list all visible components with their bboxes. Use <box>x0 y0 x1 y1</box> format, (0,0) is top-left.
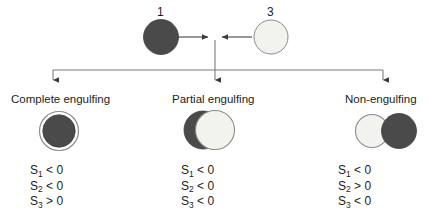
condition-symbol: S <box>338 179 346 193</box>
condition-comparison: > 0 <box>351 179 371 193</box>
condition-symbol: S <box>181 179 189 193</box>
condition-symbol: S <box>30 179 38 193</box>
branch-connectors <box>53 40 383 70</box>
condition-symbol: S <box>30 194 38 208</box>
complete-engulfing-icon <box>40 112 79 151</box>
branch-label-non: Non-engulfing <box>345 94 417 106</box>
condition-symbol: S <box>181 194 189 208</box>
condition-line-1: S1 < 0 <box>181 163 214 179</box>
condition-subscript: 3 <box>38 200 43 210</box>
condition-symbol: S <box>338 163 346 177</box>
condition-comparison: < 0 <box>194 194 214 208</box>
condition-comparison: < 0 <box>194 163 214 177</box>
particle-1-label: 1 <box>157 6 164 18</box>
branch-label-complete: Complete engulfing <box>11 94 110 106</box>
condition-symbol: S <box>181 163 189 177</box>
condition-line-2: S2 < 0 <box>30 179 63 195</box>
condition-comparison: < 0 <box>351 194 371 208</box>
condition-comparison: < 0 <box>43 179 63 193</box>
condition-line-1: S1 < 0 <box>30 163 63 179</box>
condition-line-3: S3 < 0 <box>181 194 214 210</box>
non-engulfing-icon <box>356 114 417 149</box>
engulfing-diagram: 1 3 Complete engulfing Partial engulfing… <box>0 0 428 219</box>
partial-engulfing-icon <box>184 111 235 150</box>
condition-line-3: S3 < 0 <box>338 194 371 210</box>
condition-subscript: 1 <box>38 169 43 179</box>
condition-subscript: 2 <box>346 184 351 194</box>
condition-line-2: S2 < 0 <box>181 179 214 195</box>
conditions-partial: S1 < 0S2 < 0S3 < 0 <box>181 163 214 210</box>
condition-subscript: 1 <box>189 169 194 179</box>
branch-label-partial: Partial engulfing <box>172 94 254 106</box>
particle-3-glyph <box>254 20 288 54</box>
conditions-complete: S1 < 0S2 < 0S3 > 0 <box>30 163 63 210</box>
condition-symbol: S <box>30 163 38 177</box>
condition-comparison: < 0 <box>43 163 63 177</box>
conditions-non: S1 < 0S2 > 0S3 < 0 <box>338 163 371 210</box>
condition-line-1: S1 < 0 <box>338 163 371 179</box>
condition-comparison: < 0 <box>194 179 214 193</box>
condition-subscript: 3 <box>189 200 194 210</box>
condition-subscript: 2 <box>189 184 194 194</box>
particle-3-label: 3 <box>267 6 274 18</box>
condition-comparison: < 0 <box>351 163 371 177</box>
condition-subscript: 3 <box>346 200 351 210</box>
particle-1-glyph <box>144 20 179 55</box>
condition-line-2: S2 > 0 <box>338 179 371 195</box>
condition-line-3: S3 > 0 <box>30 194 63 210</box>
condition-subscript: 1 <box>346 169 351 179</box>
condition-symbol: S <box>338 194 346 208</box>
condition-subscript: 2 <box>38 184 43 194</box>
condition-comparison: > 0 <box>43 194 63 208</box>
